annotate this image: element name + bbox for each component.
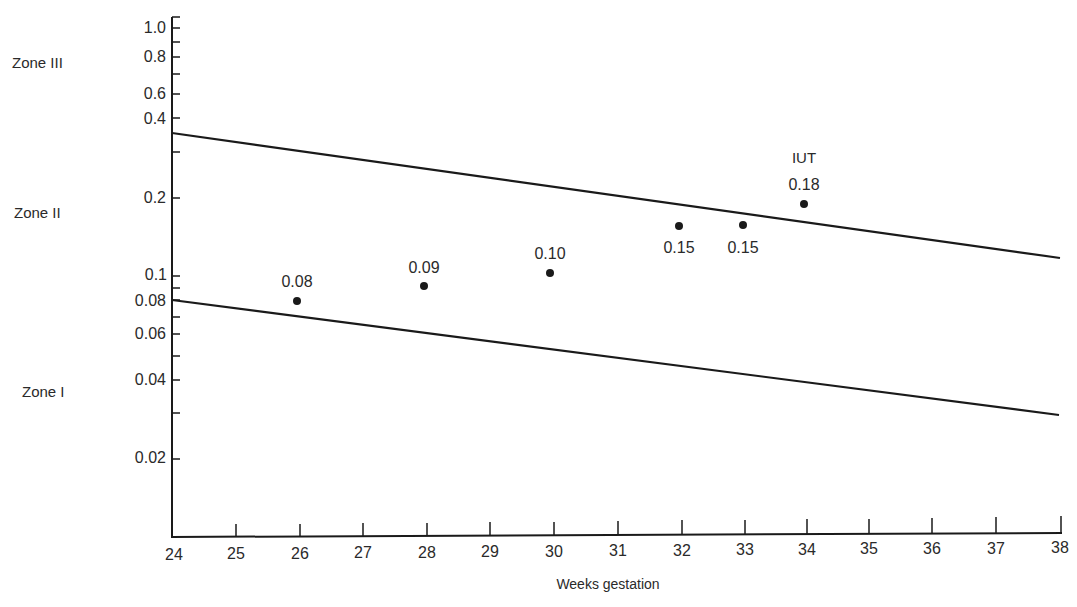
x-tick-label: 30: [534, 543, 574, 561]
x-tick-label: 26: [280, 545, 320, 563]
data-point-30: [546, 269, 554, 277]
x-axis: [171, 533, 1062, 537]
x-tick-label: 25: [216, 545, 256, 563]
x-tick-label: 29: [470, 543, 510, 561]
iut-annotation: IUT: [774, 149, 834, 166]
point-label-32: 0.15: [649, 239, 709, 257]
zone-ii-label: Zone II: [14, 204, 61, 221]
data-point-33: [739, 221, 747, 229]
y-tick-label: 0.06: [106, 325, 166, 343]
x-tick-label: 31: [598, 542, 638, 560]
x-tick-label: 38: [1040, 539, 1077, 557]
x-tick-label: 36: [912, 540, 952, 558]
point-label-34: 0.18: [774, 176, 834, 194]
x-tick-label: 35: [849, 540, 889, 558]
point-label-28: 0.09: [394, 259, 454, 277]
y-tick-label: 0.4: [106, 110, 166, 128]
y-tick-label: 0.6: [106, 85, 166, 103]
zone-i-label: Zone I: [22, 383, 65, 400]
data-point-28: [420, 282, 428, 290]
y-ticks: [172, 17, 180, 459]
x-tick-label: 33: [725, 541, 765, 559]
x-axis-title: Weeks gestation: [508, 576, 708, 592]
point-label-26: 0.08: [267, 273, 327, 291]
data-point-26: [293, 297, 301, 305]
data-point-32: [675, 222, 683, 230]
data-point-34: [800, 200, 808, 208]
x-tick-label: 32: [662, 542, 702, 560]
point-label-33: 0.15: [713, 239, 773, 257]
lower-boundary-line: [172, 300, 1059, 415]
zone-iii-label: Zone III: [12, 54, 63, 71]
y-tick-label: 0.1: [107, 266, 167, 284]
point-label-30: 0.10: [520, 245, 580, 263]
x-tick-label: 34: [787, 541, 827, 559]
y-tick-label: 0.2: [106, 189, 166, 207]
y-tick-label: 0.04: [106, 371, 166, 389]
x-tick-label: 28: [407, 544, 447, 562]
x-tick-label: 37: [976, 540, 1016, 558]
y-tick-label: 1.0: [106, 19, 166, 37]
y-tick-label: 0.02: [106, 449, 166, 467]
upper-boundary-line: [172, 133, 1060, 258]
y-tick-label: 0.8: [106, 48, 166, 66]
y-tick-label: 0.08: [106, 292, 166, 310]
x-tick-label: 24: [154, 546, 194, 564]
x-tick-label: 27: [343, 544, 383, 562]
